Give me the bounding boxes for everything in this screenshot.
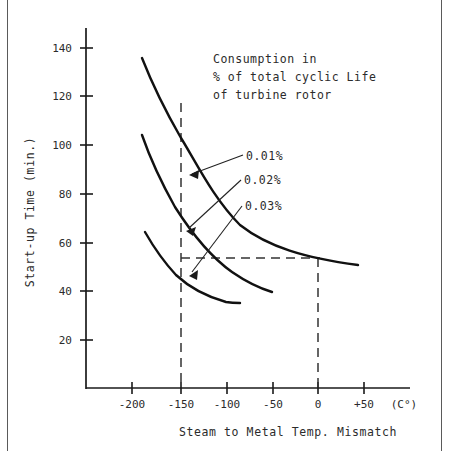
annotation-line-2: % of total cyclic Life: [213, 70, 376, 84]
y-tick-label-120: 120: [52, 90, 72, 103]
y-tick-label-40: 40: [59, 285, 72, 298]
x-tick-label-plus50: +50: [354, 398, 374, 411]
y-axis-tick-labels: 140 120 100 80 60 40 20: [52, 42, 72, 347]
y-tick-label-140: 140: [52, 42, 72, 55]
x-tick-label-minus150: -150: [168, 398, 195, 411]
y-tick-label-20: 20: [59, 334, 72, 347]
leader-line-0-03: [192, 206, 242, 272]
leader-line-0-02: [189, 180, 241, 228]
leader-arrow-0-03: [189, 270, 198, 280]
leader-arrow-0-01: [189, 170, 199, 179]
series-label-0-02: 0.02%: [244, 173, 281, 187]
leader-line-0-01: [192, 155, 243, 174]
x-axis-tick-labels: -200 -150 -100 -50 0 +50 (C°): [119, 398, 418, 411]
x-tick-label-minus50: -50: [263, 398, 283, 411]
series-label-0-01: 0.01%: [246, 149, 283, 163]
x-tick-label-zero: 0: [315, 398, 322, 411]
x-tick-label-minus200: -200: [119, 398, 146, 411]
chart-canvas: 140 120 100 80 60 40 20 -200 -150 -100 -…: [0, 0, 449, 451]
figure-container: 140 120 100 80 60 40 20 -200 -150 -100 -…: [0, 0, 449, 451]
y-tick-label-60: 60: [59, 237, 72, 250]
consumption-annotation: Consumption in % of total cyclic Life of…: [213, 52, 376, 102]
annotation-line-1: Consumption in: [213, 52, 317, 66]
y-axis-title: Start-up Time (min.): [23, 137, 37, 287]
series-label-0-03: 0.03%: [245, 199, 282, 213]
y-tick-label-80: 80: [59, 188, 72, 201]
x-tick-label-minus100: -100: [214, 398, 241, 411]
annotation-line-3: of turbine rotor: [213, 88, 332, 102]
y-tick-label-100: 100: [52, 139, 72, 152]
x-axis-title: Steam to Metal Temp. Mismatch: [179, 425, 397, 439]
callout-0-03-percent: 0.03%: [189, 199, 282, 280]
x-axis-unit-label: (C°): [391, 398, 418, 411]
